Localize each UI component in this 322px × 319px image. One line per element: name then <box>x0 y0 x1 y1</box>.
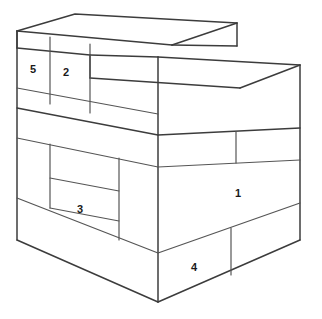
isometric-block-drawing: 1 2 3 4 5 <box>0 0 322 319</box>
block-label-1: 1 <box>235 187 241 199</box>
block-diagram-figure: 1 2 3 4 5 <box>0 0 322 319</box>
face-left-main <box>17 31 158 302</box>
block-label-4: 4 <box>191 261 198 273</box>
face-right-main <box>158 57 300 302</box>
edge-upper-slab-bottom <box>172 45 237 46</box>
block-label-2: 2 <box>63 66 69 78</box>
block-label-5: 5 <box>30 63 36 75</box>
block-label-3: 3 <box>77 203 83 215</box>
